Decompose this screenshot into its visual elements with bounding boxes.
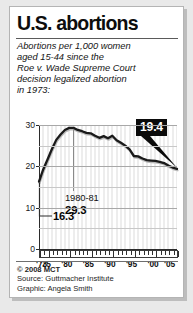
y-axis-tick xyxy=(36,125,39,126)
y-axis-tick-label: 10 xyxy=(10,203,35,213)
subtitle-line-4: decision legalized abortion xyxy=(17,74,181,85)
gridline-major xyxy=(39,125,177,126)
gridline-minor xyxy=(39,187,177,188)
y-axis-tick-label: 0 xyxy=(10,244,35,254)
infographic-page: U.S. abortions Abortions per 1,000 women… xyxy=(0,0,193,313)
y-axis-tick-label: 20 xyxy=(10,161,35,171)
gridline-minor xyxy=(39,228,177,229)
copyright-label: © 2008 MCT xyxy=(17,265,114,274)
subtitle-line-2: aged 15-44 since the xyxy=(17,52,181,63)
infographic-card: U.S. abortions Abortions per 1,000 women… xyxy=(9,6,184,298)
subtitle-line-1: Abortions per 1,000 women xyxy=(17,41,181,52)
peak-years-label: 1980-81 xyxy=(65,192,99,203)
title-divider xyxy=(16,38,178,39)
chart-subtitle: Abortions per 1,000 women aged 15-44 sin… xyxy=(17,41,181,96)
gridline-major xyxy=(39,166,177,167)
footer-divider xyxy=(16,261,178,262)
source-label: Source: Guttmacher Institute xyxy=(17,274,114,283)
axis-baseline xyxy=(39,249,177,250)
line-chart: 1980-81 29.3 16.3 19.4 0102030'73'75'80'… xyxy=(10,92,183,260)
series-line-group xyxy=(10,92,183,260)
page-title: U.S. abortions xyxy=(17,10,138,36)
gridline-major xyxy=(39,208,177,209)
y-axis-tick xyxy=(36,166,39,167)
end-value-callout: 19.4 xyxy=(136,119,167,136)
y-axis-tick-label: 30 xyxy=(10,120,35,130)
y-axis-tick xyxy=(36,208,39,209)
y-axis-tick xyxy=(36,249,39,250)
chart-footer: © 2008 MCT Source: Guttmacher Institute … xyxy=(17,265,114,293)
start-value-label: 16.3 xyxy=(53,210,74,222)
subtitle-line-3: Roe v. Wade Supreme Court xyxy=(17,63,181,74)
graphic-credit-label: Graphic: Angela Smith xyxy=(17,284,114,293)
gridline-minor xyxy=(39,146,177,147)
